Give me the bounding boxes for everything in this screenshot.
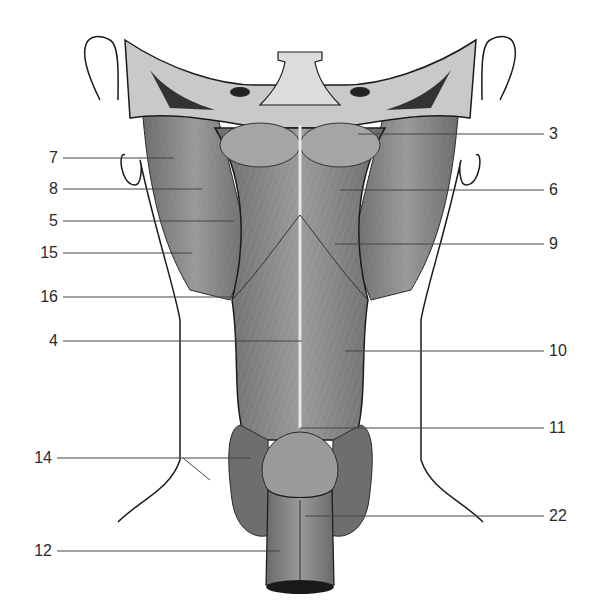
label-6: 6 [549, 182, 558, 198]
anatomy-figure: 7 8 5 15 16 4 14 12 3 6 9 10 11 22 [0, 0, 601, 603]
label-22: 22 [549, 508, 567, 524]
label-8: 8 [18, 181, 58, 197]
label-5: 5 [18, 213, 58, 229]
label-11: 11 [549, 420, 566, 436]
label-10: 10 [549, 343, 567, 359]
label-3: 3 [549, 126, 558, 142]
label-7: 7 [18, 150, 58, 166]
label-9: 9 [549, 236, 558, 252]
label-16: 16 [18, 289, 58, 305]
label-15: 15 [18, 245, 58, 261]
label-14: 14 [12, 450, 52, 466]
leader-lines [0, 0, 601, 603]
label-12: 12 [12, 543, 52, 559]
label-4: 4 [18, 333, 58, 349]
